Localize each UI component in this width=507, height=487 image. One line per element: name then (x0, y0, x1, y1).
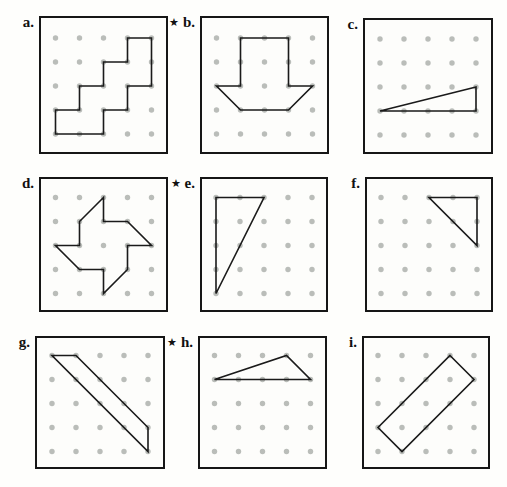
peg-dot (260, 425, 265, 430)
peg-dot (97, 353, 102, 358)
peg-dot (426, 291, 431, 296)
panel-letter: e. (185, 175, 195, 191)
geoboard (363, 18, 493, 154)
panel-label: ★e. (171, 175, 195, 192)
peg-dot (121, 353, 126, 358)
peg-dot (145, 377, 150, 382)
peg-dot (309, 243, 314, 248)
panel-letter: d. (22, 175, 34, 191)
geoboard-panel-c: c. (363, 18, 493, 154)
peg-dot (214, 59, 219, 64)
peg-dot (285, 219, 290, 224)
peg-dot (447, 377, 452, 382)
peg-dot (261, 291, 266, 296)
peg-dot (284, 449, 289, 454)
peg-dot (149, 107, 154, 112)
shape-staircase (56, 38, 152, 134)
peg-dot (402, 267, 407, 272)
peg-dot (53, 267, 58, 272)
peg-dot (450, 267, 455, 272)
peg-dot (53, 35, 58, 40)
peg-dot (378, 219, 383, 224)
peg-dot (471, 449, 476, 454)
peg-dot (77, 195, 82, 200)
peg-dot (149, 219, 154, 224)
peg-dot (401, 36, 406, 41)
peg-dot (425, 60, 430, 65)
panel-label: c. (348, 16, 358, 32)
peg-dot (399, 425, 404, 430)
peg-dot (377, 84, 382, 89)
peg-dot (309, 267, 314, 272)
peg-dot (474, 291, 479, 296)
peg-dot (425, 84, 430, 89)
panel-letter: a. (23, 14, 34, 30)
peg-dot (449, 60, 454, 65)
shape-tall-right-triangle (216, 198, 264, 294)
peg-dot (310, 131, 315, 136)
peg-dot (77, 291, 82, 296)
peg-dot (121, 377, 126, 382)
peg-dot (49, 377, 54, 382)
peg-dot (285, 195, 290, 200)
peg-dot (53, 291, 58, 296)
peg-dot (401, 60, 406, 65)
geoboard-canvas (202, 18, 327, 152)
panel-label: a. (23, 14, 34, 30)
peg-dot (73, 449, 78, 454)
panel-letter: b. (183, 14, 195, 30)
shape-right-triangle (429, 198, 477, 246)
geoboard-canvas (364, 338, 488, 467)
peg-dot (401, 84, 406, 89)
peg-dot (121, 449, 126, 454)
peg-dot (53, 219, 58, 224)
geoboard-canvas (365, 20, 491, 152)
peg-dot (423, 449, 428, 454)
peg-dot (125, 131, 130, 136)
panel-letter: h. (181, 334, 193, 350)
shape-thin-right-triangle (380, 87, 476, 111)
peg-dot (260, 401, 265, 406)
geoboard-canvas (37, 338, 163, 467)
peg-dot (53, 195, 58, 200)
peg-dot (399, 353, 404, 358)
peg-dot (261, 267, 266, 272)
peg-dot (447, 449, 452, 454)
panel-letter: f. (351, 175, 360, 191)
peg-dot (238, 131, 243, 136)
peg-dot (401, 132, 406, 137)
peg-dot (449, 36, 454, 41)
peg-dot (426, 219, 431, 224)
peg-dot (261, 219, 266, 224)
shape-obtuse-triangle (215, 356, 311, 380)
peg-dot (375, 377, 380, 382)
geoboard-panel-a: a. (39, 16, 168, 154)
geoboard (365, 177, 493, 312)
peg-dot (125, 291, 130, 296)
peg-dot (402, 219, 407, 224)
geoboard-canvas (41, 179, 166, 310)
geoboard-figure: a.★b.c.d.★e.f.g.★h.i. (0, 0, 507, 487)
peg-dot (471, 353, 476, 358)
geoboard-panel-e: ★e. (200, 177, 328, 312)
peg-dot (423, 353, 428, 358)
peg-dot (449, 132, 454, 137)
peg-dot (77, 35, 82, 40)
geoboard (362, 336, 490, 469)
peg-dot (212, 401, 217, 406)
peg-dot (423, 401, 428, 406)
peg-dot (212, 353, 217, 358)
peg-dot (97, 425, 102, 430)
panel-label: f. (351, 175, 360, 191)
peg-dot (471, 401, 476, 406)
peg-dot (101, 35, 106, 40)
peg-dot (236, 425, 241, 430)
peg-dot (402, 291, 407, 296)
panel-label: i. (349, 334, 357, 350)
peg-dot (286, 131, 291, 136)
peg-dot (378, 291, 383, 296)
peg-dot (149, 131, 154, 136)
peg-dot (310, 107, 315, 112)
peg-dot (262, 131, 267, 136)
peg-dot (73, 425, 78, 430)
